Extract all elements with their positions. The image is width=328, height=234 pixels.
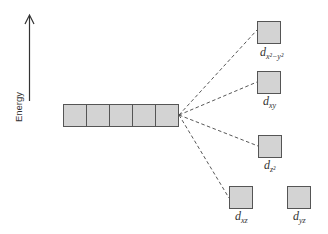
degenerate-orbital-box (133, 105, 156, 127)
orbital-splitting-diagram: Energy dx²−y² dxy dz² dxz dyz (0, 0, 328, 234)
degenerate-orbital-box (87, 105, 110, 127)
orbital-dx2-y2: dx²−y² (258, 22, 284, 62)
connector-line-dz2 (179, 115, 258, 146)
connector-line-dxz (179, 115, 229, 198)
degenerate-orbital-row (64, 105, 179, 127)
energy-axis: Energy (13, 15, 34, 122)
orbital-box (258, 22, 281, 44)
connector-line-dxy (179, 82, 257, 115)
orbital-box (259, 136, 282, 158)
connector-line-dx2-y2 (179, 30, 257, 115)
orbital-box (230, 187, 253, 209)
orbital-label: dxy (263, 94, 277, 110)
orbital-dxy: dxy (258, 72, 281, 111)
orbital-dyz: dyz (288, 187, 311, 226)
orbital-label: dz² (264, 158, 276, 174)
degenerate-orbital-box (110, 105, 133, 127)
orbital-dz2: dz² (259, 136, 282, 175)
degenerate-orbital-box (64, 105, 87, 127)
orbital-box (258, 72, 281, 94)
energy-axis-label: Energy (13, 92, 24, 122)
orbital-label: dx²−y² (260, 45, 284, 61)
orbital-label: dxz (235, 209, 249, 225)
orbital-dxz: dxz (230, 187, 253, 226)
orbital-label: dyz (293, 209, 307, 225)
degenerate-orbital-box (156, 105, 179, 127)
orbital-box (288, 187, 311, 209)
connector-lines (179, 30, 258, 198)
